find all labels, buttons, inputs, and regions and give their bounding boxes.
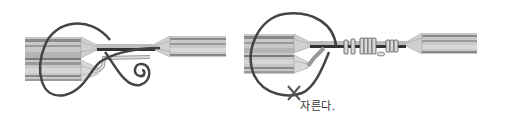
left-cable [25,37,98,81]
binding-coils [344,38,398,54]
right-cable [406,33,477,54]
splice-diagram-left [0,0,240,120]
splice-illustration-left [0,0,240,120]
right-cable [155,36,226,57]
splice-diagram-right: 자른다. [244,0,512,120]
splice-illustration-right [244,0,512,120]
cut-annotation: 자른다. [300,97,336,113]
